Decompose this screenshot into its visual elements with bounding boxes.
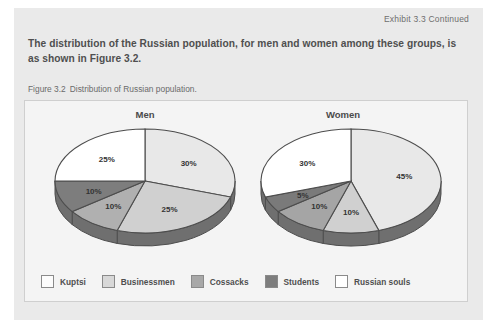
legend-item: Kuptsi: [41, 275, 86, 288]
legend-item: Russian souls: [335, 275, 410, 288]
legend-swatch: [102, 275, 115, 288]
legend-item: Businessmen: [102, 275, 175, 288]
legend-label: Kuptsi: [60, 277, 86, 287]
legend-label: Cossacks: [210, 277, 249, 287]
men-slice-label: 25%: [162, 205, 178, 214]
figure-caption-text: Distribution of Russian population.: [70, 84, 197, 94]
pie-chart-women-svg: 45%10%10%5%30%: [253, 123, 449, 253]
legend-label: Russian souls: [354, 277, 410, 287]
legend-items-row: KuptsiBusinessmenCossacksStudentsRussian…: [41, 275, 426, 288]
women-slice-label: 10%: [343, 208, 359, 217]
legend-swatch: [191, 275, 204, 288]
pie-title-men: Men: [85, 109, 205, 120]
men-slice-label: 25%: [99, 155, 115, 164]
figure-chart-box: Men Women 30%25%10%10%25% 45%10%10%5%30%…: [24, 100, 468, 302]
pie-chart-women: 45%10%10%5%30%: [253, 123, 449, 257]
exhibit-body-text: The distribution of the Russian populati…: [28, 36, 468, 66]
legend-swatch: [335, 275, 348, 288]
women-slice-label: 45%: [396, 172, 412, 181]
legend-label: Students: [284, 277, 320, 287]
women-slice-label: 30%: [299, 159, 315, 168]
men-slice-label: 30%: [181, 159, 197, 168]
legend-label: Businessmen: [121, 277, 175, 287]
legend-swatch: [265, 275, 278, 288]
exhibit-panel: Exhibit 3.3 Continued The distribution o…: [14, 8, 483, 320]
pie-chart-men: 30%25%10%10%25%: [47, 123, 243, 257]
men-slice-label: 10%: [105, 202, 121, 211]
figure-number: Figure 3.2: [28, 84, 66, 94]
men-slice-label: 10%: [86, 187, 102, 196]
screenshot-page: Exhibit 3.3 Continued The distribution o…: [0, 0, 497, 331]
pie-chart-men-svg: 30%25%10%10%25%: [47, 123, 243, 253]
legend-item: Students: [265, 275, 320, 288]
exhibit-continued-label: Exhibit 3.3 Continued: [384, 14, 469, 24]
legend-swatch: [41, 275, 54, 288]
pie-title-women: Women: [283, 109, 403, 120]
chart-legend: KuptsiBusinessmenCossacksStudentsRussian…: [25, 273, 469, 295]
legend-item: Cossacks: [191, 275, 249, 288]
figure-caption: Figure 3.2Distribution of Russian popula…: [28, 84, 197, 94]
women-slice-label: 10%: [311, 202, 327, 211]
women-slice-label: 5%: [297, 191, 309, 200]
